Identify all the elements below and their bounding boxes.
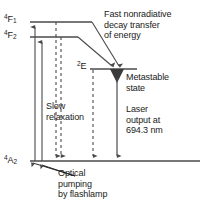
annotation-metastable-state: Metastable state [126,72,200,93]
state-label-4F2: 4F2 [4,30,16,40]
annotation-optical-pumping: Optical pumping by flashlamp [58,168,158,200]
annotation-slow-relaxation: Slow relaxation [46,101,102,122]
state-label-4F2-subscript: 2 [13,33,17,40]
state-label-4A2-subscript: 2 [13,158,17,165]
state-label-4A2: 4A2 [4,155,17,165]
state-label-4F1-subscript: 1 [13,17,17,24]
energy-level-diagram-figure: 4F1 4F2 2E 4A2 Fast nonradiative decay t… [0,0,200,213]
state-label-2E-main: E [81,61,87,71]
state-label-2E: 2E [77,61,86,71]
annotation-laser-output: Laser output at 694.3 nm [126,104,200,136]
annotation-fast-nonradiative-decay: Fast nonradiative decay transfer of ener… [104,9,200,41]
state-label-4F1: 4F1 [4,14,16,24]
